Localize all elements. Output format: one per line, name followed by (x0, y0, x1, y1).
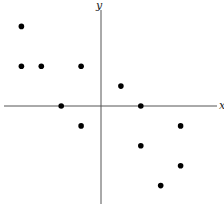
data-point (158, 183, 164, 189)
data-point (138, 143, 144, 149)
data-point (138, 103, 144, 109)
data-point (19, 24, 25, 30)
data-point (178, 123, 184, 129)
data-point (118, 83, 124, 89)
data-point (39, 63, 45, 69)
data-point (78, 63, 84, 69)
data-point (58, 103, 64, 109)
scatter-plot: x y (0, 0, 224, 209)
y-axis-label: y (95, 0, 103, 12)
data-point (178, 163, 184, 169)
data-point (78, 123, 84, 129)
x-axis-label: x (219, 99, 224, 112)
data-point (19, 63, 25, 69)
